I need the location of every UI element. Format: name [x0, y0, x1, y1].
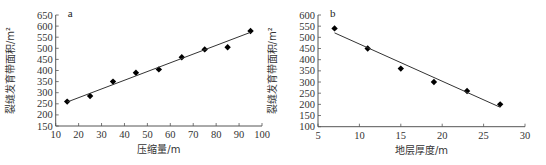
- y-tick-label: 300: [37, 87, 53, 98]
- y-tick-label: 200: [299, 99, 315, 110]
- x-tick-label: 50: [142, 129, 153, 140]
- chart-panel-b: 1001502002503003504004505005506005101520…: [266, 7, 530, 156]
- x-tick-label: 70: [188, 129, 199, 140]
- x-axis-title: 压缩量/m: [137, 143, 180, 155]
- panel-label: b: [330, 7, 336, 19]
- x-tick-label: 5: [315, 130, 320, 141]
- y-tick-label: 650: [37, 10, 53, 21]
- y-tick-label: 250: [299, 88, 315, 99]
- data-points: [64, 28, 254, 105]
- y-tick-label: 250: [37, 98, 53, 109]
- panel-label: a: [68, 7, 73, 19]
- x-tick-label: 10: [354, 130, 365, 141]
- x-tick-label: 15: [396, 130, 407, 141]
- x-tick-label: 20: [73, 129, 84, 140]
- chart-panel-a: 1502002503003504004505005506006501020304…: [4, 7, 270, 155]
- x-tick-label: 60: [165, 129, 176, 140]
- data-point-marker: [398, 65, 404, 71]
- y-tick-label: 300: [299, 77, 315, 88]
- y-tick-label: 150: [299, 110, 315, 121]
- y-tick-label: 100: [299, 121, 315, 132]
- y-tick-label: 550: [299, 21, 315, 32]
- y-tick-label: 350: [37, 76, 53, 87]
- y-tick-label: 400: [299, 54, 315, 65]
- y-axis-title: 裂缝发育带面积/m²: [266, 27, 278, 114]
- data-points: [331, 25, 503, 107]
- x-tick-label: 90: [234, 129, 245, 140]
- y-tick-label: 600: [37, 21, 53, 32]
- x-tick-label: 30: [520, 130, 531, 141]
- x-tick-label: 10: [50, 129, 61, 140]
- y-tick-label: 450: [299, 43, 315, 54]
- x-tick-label: 20: [437, 130, 448, 141]
- axes: 1502002503003504004505005506006501020304…: [37, 10, 270, 141]
- y-tick-label: 400: [37, 65, 53, 76]
- data-point-marker: [431, 79, 437, 85]
- fit-line: [335, 33, 501, 107]
- chart-canvas: 1502002503003504004505005506006501020304…: [0, 0, 546, 165]
- y-axis-title: 裂缝发育带面积/m²: [4, 27, 16, 114]
- y-tick-label: 350: [299, 65, 315, 76]
- y-tick-label: 500: [37, 43, 53, 54]
- y-tick-label: 450: [37, 54, 53, 65]
- x-tick-label: 30: [96, 129, 107, 140]
- y-tick-label: 200: [37, 109, 53, 120]
- x-tick-label: 80: [211, 129, 222, 140]
- x-axis-title: 地层厚度/m: [395, 144, 448, 156]
- x-tick-label: 25: [478, 130, 489, 141]
- data-point-marker: [331, 25, 337, 31]
- x-tick-label: 40: [119, 129, 130, 140]
- data-point-marker: [224, 44, 230, 50]
- fit-line: [67, 32, 250, 102]
- y-tick-label: 600: [299, 10, 315, 21]
- y-tick-label: 500: [299, 32, 315, 43]
- y-tick-label: 550: [37, 32, 53, 43]
- x-tick-label: 100: [254, 129, 270, 140]
